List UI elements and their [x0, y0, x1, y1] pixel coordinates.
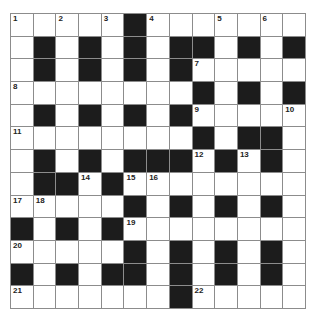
crossword-cell[interactable]	[238, 14, 260, 36]
crossword-cell[interactable]	[79, 82, 101, 104]
crossword-cell[interactable]	[79, 286, 101, 308]
crossword-cell[interactable]	[261, 37, 283, 59]
crossword-cell[interactable]: 14	[79, 173, 101, 195]
crossword-cell[interactable]: 20	[11, 241, 33, 263]
crossword-cell[interactable]: 16	[147, 173, 169, 195]
crossword-cell[interactable]	[102, 59, 124, 81]
crossword-cell[interactable]	[215, 37, 237, 59]
crossword-cell[interactable]	[215, 173, 237, 195]
crossword-cell[interactable]	[34, 241, 56, 263]
crossword-cell[interactable]: 1	[11, 14, 33, 36]
crossword-cell[interactable]	[102, 241, 124, 263]
crossword-cell[interactable]	[11, 59, 33, 81]
crossword-cell[interactable]	[79, 14, 101, 36]
crossword-cell[interactable]: 11	[11, 127, 33, 149]
crossword-cell[interactable]	[56, 196, 78, 218]
crossword-cell[interactable]	[261, 59, 283, 81]
crossword-cell[interactable]	[170, 14, 192, 36]
crossword-cell[interactable]	[102, 196, 124, 218]
crossword-cell[interactable]	[124, 82, 146, 104]
crossword-cell[interactable]	[79, 241, 101, 263]
crossword-cell[interactable]	[193, 14, 215, 36]
crossword-cell[interactable]	[283, 286, 305, 308]
crossword-cell[interactable]	[102, 127, 124, 149]
crossword-cell[interactable]: 15	[124, 173, 146, 195]
crossword-cell[interactable]	[102, 105, 124, 127]
crossword-cell[interactable]	[193, 173, 215, 195]
crossword-cell[interactable]	[170, 218, 192, 240]
crossword-cell[interactable]	[11, 150, 33, 172]
crossword-cell[interactable]	[147, 218, 169, 240]
crossword-cell[interactable]: 7	[193, 59, 215, 81]
crossword-cell[interactable]	[193, 196, 215, 218]
crossword-cell[interactable]	[147, 241, 169, 263]
crossword-cell[interactable]	[102, 82, 124, 104]
crossword-cell[interactable]	[124, 286, 146, 308]
crossword-cell[interactable]	[261, 173, 283, 195]
crossword-cell[interactable]	[147, 286, 169, 308]
crossword-cell[interactable]	[56, 59, 78, 81]
crossword-cell[interactable]	[147, 264, 169, 286]
crossword-cell[interactable]	[56, 286, 78, 308]
crossword-cell[interactable]	[56, 241, 78, 263]
crossword-cell[interactable]: 9	[193, 105, 215, 127]
crossword-cell[interactable]	[170, 82, 192, 104]
crossword-cell[interactable]	[238, 286, 260, 308]
crossword-cell[interactable]	[56, 37, 78, 59]
crossword-cell[interactable]	[79, 127, 101, 149]
crossword-cell[interactable]	[283, 59, 305, 81]
crossword-cell[interactable]	[215, 218, 237, 240]
crossword-cell[interactable]: 2	[56, 14, 78, 36]
crossword-cell[interactable]: 5	[215, 14, 237, 36]
crossword-cell[interactable]	[34, 14, 56, 36]
crossword-cell[interactable]	[34, 286, 56, 308]
crossword-cell[interactable]	[193, 218, 215, 240]
crossword-cell[interactable]	[11, 37, 33, 59]
crossword-cell[interactable]	[56, 105, 78, 127]
crossword-cell[interactable]	[283, 14, 305, 36]
crossword-cell[interactable]	[79, 218, 101, 240]
crossword-cell[interactable]	[147, 196, 169, 218]
crossword-cell[interactable]	[261, 286, 283, 308]
crossword-cell[interactable]	[11, 105, 33, 127]
crossword-cell[interactable]	[283, 173, 305, 195]
crossword-cell[interactable]	[79, 264, 101, 286]
crossword-cell[interactable]	[238, 105, 260, 127]
crossword-cell[interactable]	[193, 264, 215, 286]
crossword-cell[interactable]	[34, 127, 56, 149]
crossword-cell[interactable]	[215, 105, 237, 127]
crossword-cell[interactable]	[215, 59, 237, 81]
crossword-cell[interactable]	[11, 173, 33, 195]
crossword-cell[interactable]	[193, 241, 215, 263]
crossword-cell[interactable]	[215, 127, 237, 149]
crossword-cell[interactable]	[261, 82, 283, 104]
crossword-cell[interactable]	[147, 105, 169, 127]
crossword-cell[interactable]	[238, 173, 260, 195]
crossword-cell[interactable]: 8	[11, 82, 33, 104]
crossword-cell[interactable]: 4	[147, 14, 169, 36]
crossword-cell[interactable]	[238, 196, 260, 218]
crossword-cell[interactable]	[283, 127, 305, 149]
crossword-cell[interactable]	[215, 286, 237, 308]
crossword-cell[interactable]	[79, 196, 101, 218]
crossword-cell[interactable]	[56, 127, 78, 149]
crossword-cell[interactable]: 19	[124, 218, 146, 240]
crossword-cell[interactable]: 10	[283, 105, 305, 127]
crossword-cell[interactable]	[34, 218, 56, 240]
crossword-cell[interactable]	[147, 82, 169, 104]
crossword-cell[interactable]	[170, 173, 192, 195]
crossword-cell[interactable]	[34, 82, 56, 104]
crossword-cell[interactable]	[124, 127, 146, 149]
crossword-cell[interactable]: 6	[261, 14, 283, 36]
crossword-cell[interactable]	[238, 241, 260, 263]
crossword-cell[interactable]: 17	[11, 196, 33, 218]
crossword-cell[interactable]	[34, 264, 56, 286]
crossword-cell[interactable]	[283, 218, 305, 240]
crossword-cell[interactable]: 3	[102, 14, 124, 36]
crossword-cell[interactable]	[102, 150, 124, 172]
crossword-cell[interactable]: 18	[34, 196, 56, 218]
crossword-cell[interactable]	[102, 286, 124, 308]
crossword-cell[interactable]	[238, 264, 260, 286]
crossword-cell[interactable]	[283, 264, 305, 286]
crossword-cell[interactable]	[147, 59, 169, 81]
